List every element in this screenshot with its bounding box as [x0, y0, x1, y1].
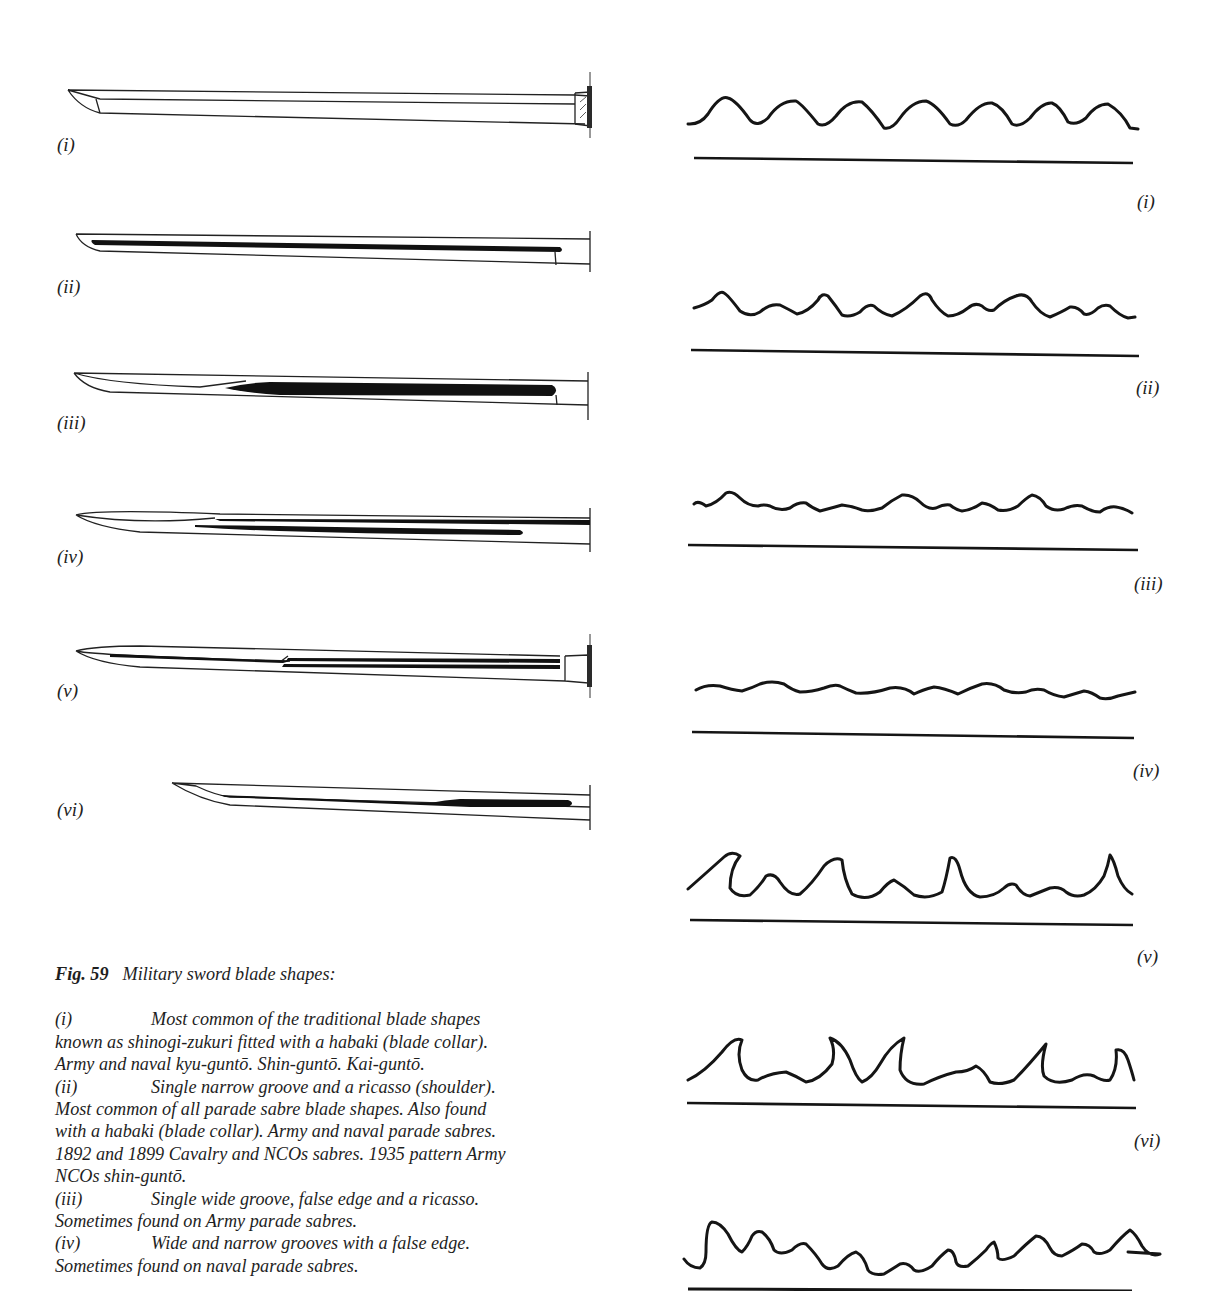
caption-line: 1892 and 1899 Cavalry and NCOs sabres. 1…	[55, 1143, 615, 1165]
caption-line: known as shinogi-zukuri fitted with a ha…	[55, 1031, 615, 1053]
caption-line: Army and naval kyu-guntō. Shin-guntō. Ka…	[55, 1053, 615, 1075]
hamon-label-ii: (ii)	[1136, 377, 1159, 399]
caption-entry-i: (i)Most common of the traditional blade …	[55, 1008, 615, 1075]
caption-line: Wide and narrow grooves with a false edg…	[151, 1233, 470, 1253]
hamon-label-i: (i)	[1137, 191, 1155, 213]
caption-line: Single wide groove, false edge and a ric…	[151, 1189, 479, 1209]
blade-label-i: (i)	[57, 134, 75, 156]
hamon-pattern-vii	[0, 0, 1, 1]
caption-entry-number: (i)	[55, 1008, 151, 1030]
caption-entry-iii: (iii)Single wide groove, false edge and …	[55, 1188, 615, 1233]
figure-title: Fig. 59Military sword blade shapes:	[55, 963, 615, 985]
caption-line: NCOs shin-guntō.	[55, 1165, 615, 1187]
blade-label-ii: (ii)	[57, 276, 80, 298]
caption-line: Sometimes found on Army parade sabres.	[55, 1210, 615, 1232]
figure-caption: Fig. 59Military sword blade shapes: (i)M…	[55, 963, 615, 1277]
caption-line: Most common of all parade sabre blade sh…	[55, 1098, 615, 1120]
caption-entry-number: (ii)	[55, 1076, 151, 1098]
hamon-label-v: (v)	[1137, 946, 1158, 968]
caption-line: Sometimes found on naval parade sabres.	[55, 1255, 615, 1277]
caption-entry-ii: (ii)Single narrow groove and a ricasso (…	[55, 1076, 615, 1188]
caption-line: Single narrow groove and a ricasso (shou…	[151, 1077, 496, 1097]
caption-entry-number: (iv)	[55, 1232, 151, 1254]
caption-entry-number: (iii)	[55, 1188, 151, 1210]
caption-line: Most common of the traditional blade sha…	[151, 1009, 480, 1029]
blade-label-iv: (iv)	[57, 546, 83, 568]
figure-title-text: Military sword blade shapes:	[123, 964, 336, 984]
hamon-label-iv: (iv)	[1133, 760, 1159, 782]
hamon-label-vi: (vi)	[1134, 1130, 1160, 1152]
blade-label-iii: (iii)	[57, 412, 86, 434]
blade-label-v: (v)	[57, 680, 78, 702]
figure-number: Fig. 59	[55, 964, 109, 984]
caption-line: with a habaki (blade collar). Army and n…	[55, 1120, 615, 1142]
caption-entry-iv: (iv)Wide and narrow grooves with a false…	[55, 1232, 615, 1277]
hamon-label-iii: (iii)	[1134, 573, 1163, 595]
blade-label-vi: (vi)	[57, 799, 83, 821]
